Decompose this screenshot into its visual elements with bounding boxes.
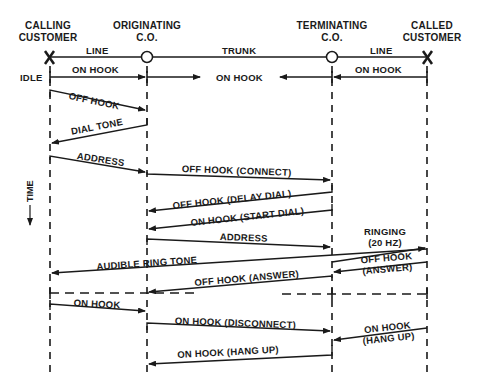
msg-label-ringing: RINGING (20 HZ) bbox=[355, 226, 415, 248]
participant-originating-co: ORIGINATING C.O. bbox=[102, 20, 192, 44]
participant-label: ORIGINATING bbox=[102, 20, 192, 32]
msg-label: ON HOOK bbox=[355, 64, 402, 75]
participant-label: TERMINATING bbox=[287, 20, 377, 32]
originating-co-node bbox=[142, 52, 153, 63]
participant-called-customer: CALLED CUSTOMER bbox=[392, 20, 472, 44]
msg-label: ON HOOK bbox=[216, 72, 263, 83]
msg-label: (20 HZ) bbox=[355, 237, 415, 248]
participant-label: C.O. bbox=[287, 32, 377, 44]
segment-line-left: LINE bbox=[86, 45, 108, 56]
participant-label: CUSTOMER bbox=[392, 32, 472, 44]
participant-label: C.O. bbox=[102, 32, 192, 44]
terminating-co-node bbox=[327, 52, 338, 63]
participant-calling-customer: CALLING CUSTOMER bbox=[8, 20, 88, 44]
participant-label: CUSTOMER bbox=[8, 32, 88, 44]
participant-label: CALLING bbox=[8, 20, 88, 32]
call-sequence-diagram: CALLING CUSTOMER ORIGINATING C.O. TERMIN… bbox=[0, 0, 480, 387]
msg-label: ON HOOK bbox=[73, 297, 120, 310]
msg-label: ADDRESS bbox=[220, 231, 268, 244]
time-axis-label: TIME bbox=[25, 181, 35, 203]
segment-line-right: LINE bbox=[370, 45, 392, 56]
segment-trunk: TRUNK bbox=[222, 45, 256, 56]
state-idle: IDLE bbox=[20, 72, 42, 83]
participant-terminating-co: TERMINATING C.O. bbox=[287, 20, 377, 44]
participant-label: CALLED bbox=[392, 20, 472, 32]
msg-label: ON HOOK bbox=[72, 64, 119, 75]
msg-label: RINGING bbox=[355, 226, 415, 237]
